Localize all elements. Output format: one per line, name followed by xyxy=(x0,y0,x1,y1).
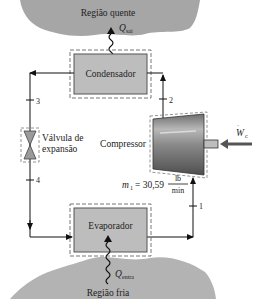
mass-flow-unit-den: min xyxy=(172,186,184,195)
cold-region: Região fria xyxy=(10,257,216,299)
state-3: 3 xyxy=(36,97,40,106)
q-in-sub: entra xyxy=(122,274,134,280)
evaporator-label: Evaporador xyxy=(88,221,133,231)
work-symbol: W xyxy=(236,128,245,138)
work-input-arrow: W c · xyxy=(220,123,252,149)
work-dot: · xyxy=(237,123,239,129)
mass-flow-sub: 1 xyxy=(130,185,133,191)
condenser: Condensador xyxy=(70,50,151,98)
valve-label-line2: expansão xyxy=(42,144,78,154)
hot-region-label: Região quente xyxy=(81,8,136,18)
evaporator: Evaporador xyxy=(70,204,151,256)
q-out-sub: sai xyxy=(126,28,133,34)
q-in-symbol: Q xyxy=(115,269,122,279)
mass-flow-label: m 1 = 30,59 lb min xyxy=(122,174,188,195)
condenser-label: Condensador xyxy=(85,69,136,79)
compressor-label: Compressor xyxy=(100,139,147,149)
valve-label-line1: Válvula de xyxy=(42,133,83,143)
state-4: 4 xyxy=(36,176,40,185)
mass-flow-value: = 30,59 xyxy=(135,180,164,190)
q-out-symbol: Q xyxy=(119,23,126,33)
mass-flow-symbol: m xyxy=(122,180,129,190)
cold-region-label: Região fria xyxy=(87,288,130,298)
refrigeration-cycle-diagram: Região quente Q sai Condensador 3 2 4 xyxy=(0,0,257,299)
work-sub: c xyxy=(245,133,248,139)
compressor: Compressor xyxy=(100,112,218,178)
expansion-valve: Válvula de expansão xyxy=(21,128,83,162)
mass-flow-unit-num: lb xyxy=(175,174,181,183)
state-1: 1 xyxy=(199,202,203,211)
state-2: 2 xyxy=(169,96,173,105)
